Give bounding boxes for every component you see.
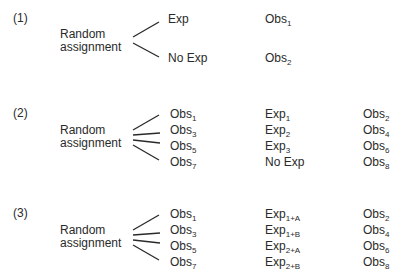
branch-line — [133, 22, 159, 37]
post-obs: Obs8 — [363, 155, 389, 169]
assignment-label-line1: Random — [60, 223, 105, 237]
branch-line — [133, 240, 160, 243]
branch-line — [133, 233, 160, 235]
treatment: Exp1+B — [265, 223, 300, 237]
treatment: Exp2 — [265, 123, 290, 137]
assignment-label-line1: Random — [60, 27, 105, 41]
branch-line — [133, 145, 159, 160]
treatment: No Exp — [265, 155, 304, 169]
post-obs: Obs4 — [363, 223, 389, 237]
post-obs: Obs2 — [363, 207, 389, 221]
post-obs: Obs8 — [363, 255, 389, 269]
obs-label: Obs1 — [265, 12, 291, 26]
group-no-exp: No Exp — [168, 51, 207, 65]
obs-label: Obs2 — [265, 51, 291, 65]
design-label: (3) — [13, 206, 28, 220]
pre-obs: Obs1 — [170, 207, 196, 221]
pre-obs: Obs3 — [170, 123, 196, 137]
pre-obs: Obs7 — [170, 155, 196, 169]
assignment-label-line2: assignment — [60, 136, 121, 150]
post-obs: Obs6 — [363, 139, 389, 153]
treatment: Exp2+B — [265, 255, 300, 269]
branch-line — [133, 215, 159, 230]
pre-obs: Obs7 — [170, 255, 196, 269]
treatment: Exp3 — [265, 139, 290, 153]
group-exp: Exp — [168, 12, 189, 26]
treatment: Exp1 — [265, 107, 290, 121]
branch-line — [133, 140, 160, 143]
design-label: (2) — [13, 106, 28, 120]
post-obs: Obs2 — [363, 107, 389, 121]
pre-obs: Obs3 — [170, 223, 196, 237]
pre-obs: Obs5 — [170, 139, 196, 153]
pre-obs: Obs1 — [170, 107, 196, 121]
assignment-label-line1: Random — [60, 123, 105, 137]
branch-line — [133, 133, 160, 135]
design-label: (1) — [13, 11, 28, 25]
pre-obs: Obs5 — [170, 239, 196, 253]
branch-line — [133, 115, 159, 130]
post-obs: Obs6 — [363, 239, 389, 253]
treatment: Exp1+A — [265, 207, 300, 221]
treatment: Exp2+A — [265, 239, 300, 253]
branch-line — [133, 245, 159, 260]
branch-line — [133, 43, 159, 57]
assignment-label-line2: assignment — [60, 40, 121, 54]
assignment-label-line2: assignment — [60, 236, 121, 250]
post-obs: Obs4 — [363, 123, 389, 137]
